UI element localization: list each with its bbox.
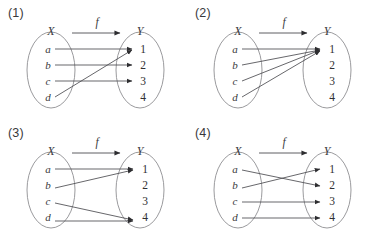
domain-oval <box>214 32 262 108</box>
codomain-element-3: 3 <box>329 75 335 87</box>
domain-oval <box>214 152 262 228</box>
domain-element-d: d <box>232 211 238 223</box>
domain-oval <box>27 152 75 228</box>
domain-oval <box>27 32 75 108</box>
domain-element-d: d <box>45 211 51 223</box>
panel-4-canvas: X Y f a b c d 1 2 3 4 <box>187 120 373 239</box>
codomain-element-1: 1 <box>142 163 148 175</box>
mapping-b-to-1 <box>55 170 133 188</box>
domain-label: X <box>46 144 55 158</box>
codomain-element-3: 3 <box>142 195 148 207</box>
diagram-panel-2: (2) X Y f a b c d 1 2 3 4 <box>187 0 373 119</box>
domain-element-c: c <box>46 195 51 207</box>
domain-element-b: b <box>232 59 238 71</box>
codomain-element-2: 2 <box>329 179 335 191</box>
mapping-c-to-1 <box>242 50 320 81</box>
function-diagram-figure: (1) X Y f a b c d 1 2 3 4 <box>0 0 373 239</box>
codomain-element-1: 1 <box>329 43 335 55</box>
domain-element-a: a <box>45 163 51 175</box>
diagram-panel-1: (1) X Y f a b c d 1 2 3 4 <box>0 0 186 119</box>
domain-element-b: b <box>232 179 238 191</box>
domain-label: X <box>233 24 242 38</box>
domain-element-c: c <box>46 75 51 87</box>
panel-1-canvas: X Y f a b c d 1 2 3 4 <box>0 0 186 119</box>
codomain-label: Y <box>324 24 332 38</box>
function-label: f <box>282 136 287 149</box>
codomain-element-3: 3 <box>329 195 335 207</box>
domain-element-a: a <box>232 43 238 55</box>
codomain-element-4: 4 <box>140 91 146 103</box>
mapping-c-to-4 <box>55 203 133 220</box>
domain-element-d: d <box>45 91 51 103</box>
codomain-label: Y <box>324 144 332 158</box>
codomain-element-4: 4 <box>142 211 148 223</box>
codomain-element-2: 2 <box>140 59 146 71</box>
domain-label: X <box>233 144 242 158</box>
codomain-element-1: 1 <box>329 163 335 175</box>
codomain-element-1: 1 <box>140 43 146 55</box>
domain-element-a: a <box>45 43 51 55</box>
codomain-element-3: 3 <box>140 75 146 87</box>
codomain-element-2: 2 <box>142 179 148 191</box>
panel-3-canvas: X Y f a b c d 1 2 3 4 <box>0 120 186 239</box>
function-label: f <box>282 16 287 29</box>
codomain-oval <box>303 152 351 228</box>
codomain-label: Y <box>137 24 145 38</box>
domain-element-d: d <box>232 91 238 103</box>
codomain-oval <box>116 152 164 228</box>
codomain-element-2: 2 <box>329 59 335 71</box>
diagram-panel-4: (4) X Y f a b c d 1 2 3 4 <box>187 120 373 239</box>
function-label: f <box>95 136 100 149</box>
codomain-element-4: 4 <box>329 211 335 223</box>
codomain-element-4: 4 <box>329 91 335 103</box>
panel-2-canvas: X Y f a b c d 1 2 3 4 <box>187 0 373 119</box>
diagram-panel-3: (3) X Y f a b c d 1 2 3 4 <box>0 120 186 239</box>
domain-element-c: c <box>233 195 238 207</box>
domain-element-a: a <box>232 163 238 175</box>
mapping-d-to-1 <box>55 50 132 97</box>
domain-label: X <box>46 24 55 38</box>
codomain-label: Y <box>137 144 145 158</box>
codomain-oval <box>303 32 351 108</box>
mapping-a-to-2 <box>242 170 320 186</box>
domain-element-c: c <box>233 75 238 87</box>
function-label: f <box>95 16 100 29</box>
mapping-b-to-1 <box>242 169 320 188</box>
domain-element-b: b <box>45 179 51 191</box>
domain-element-b: b <box>45 59 51 71</box>
